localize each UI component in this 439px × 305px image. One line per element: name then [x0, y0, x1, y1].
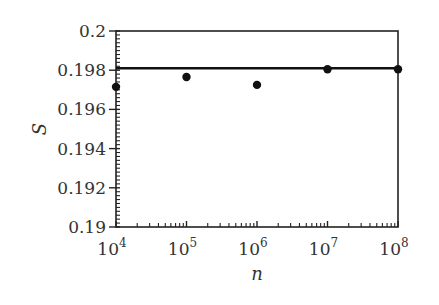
chart: 0.190.1920.1940.1960.1980.21041051061071…	[0, 0, 439, 305]
x-tick-label: 107	[309, 236, 338, 259]
y-axis-label: S	[29, 123, 50, 135]
y-tick-label: 0.192	[57, 178, 106, 198]
y-tick-label: 0.196	[57, 99, 106, 119]
data-point	[112, 83, 120, 91]
x-axis-label: n	[251, 263, 263, 284]
data-point	[253, 81, 261, 89]
y-tick-label: 0.198	[57, 60, 106, 80]
x-tick-label: 106	[238, 236, 267, 259]
y-tick-label: 0.194	[57, 139, 106, 159]
x-tick-label: 105	[168, 236, 197, 259]
data-point	[182, 73, 190, 81]
x-tick-label: 104	[97, 236, 127, 259]
y-tick-label: 0.19	[68, 217, 106, 237]
y-tick-label: 0.2	[79, 21, 106, 41]
x-tick-label: 108	[379, 236, 408, 259]
plot-frame	[116, 31, 398, 227]
